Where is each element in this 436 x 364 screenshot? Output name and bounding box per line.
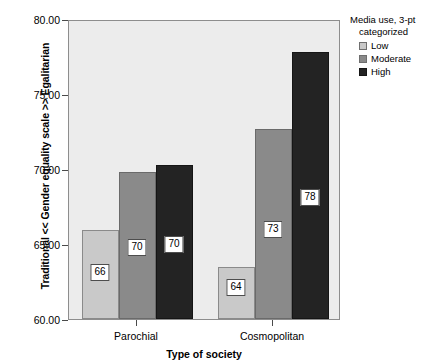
legend-item-high[interactable]: High xyxy=(359,66,436,77)
legend-item-label: High xyxy=(371,66,391,77)
legend-swatch-icon xyxy=(359,68,367,76)
x-tick-mark xyxy=(272,320,273,326)
bar-chart: Traditional << Gender equality scale >> … xyxy=(0,0,436,364)
y-tick-label: 60.00 xyxy=(0,314,60,326)
legend-items: LowModerateHigh xyxy=(350,40,436,77)
legend-swatch-icon xyxy=(359,55,367,63)
bar-value-label: 73 xyxy=(263,221,282,238)
y-tick-label: 70.00 xyxy=(0,164,60,176)
y-tick-label: 80.00 xyxy=(0,14,60,26)
x-tick-label-parochial: Parochial xyxy=(66,330,206,342)
y-tick-label: 65.00 xyxy=(0,239,60,251)
legend-item-low[interactable]: Low xyxy=(359,40,436,51)
x-axis-title: Type of society xyxy=(68,348,340,360)
legend: Media use, 3-pt categorized LowModerateH… xyxy=(350,14,436,79)
bar-value-label: 64 xyxy=(226,279,245,296)
bar-value-label: 66 xyxy=(90,264,109,281)
x-tick-label-cosmopolitan: Cosmopolitan xyxy=(202,330,342,342)
legend-title-line-1: Media use, 3-pt xyxy=(350,14,415,25)
bar-layer: 667070647378 xyxy=(69,21,339,319)
y-tick-mark xyxy=(62,320,68,321)
x-tick-mark xyxy=(136,320,137,326)
bar-high-parochial: 70 xyxy=(156,165,193,320)
legend-item-label: Moderate xyxy=(371,53,411,64)
bar-high-cosmopolitan: 78 xyxy=(292,52,329,319)
y-tick-label: 75.00 xyxy=(0,89,60,101)
plot-area: 667070647378 xyxy=(68,20,340,320)
bar-value-label: 78 xyxy=(300,189,319,206)
bar-low-parochial: 66 xyxy=(82,230,119,319)
bar-low-cosmopolitan: 64 xyxy=(218,267,255,320)
bar-moderate-parochial: 70 xyxy=(119,172,156,319)
bar-value-label: 70 xyxy=(164,236,183,253)
legend-item-moderate[interactable]: Moderate xyxy=(359,53,436,64)
legend-swatch-icon xyxy=(359,42,367,50)
legend-title-line-2: categorized xyxy=(350,26,436,38)
legend-title: Media use, 3-pt categorized xyxy=(350,14,436,37)
legend-item-label: Low xyxy=(371,40,388,51)
bar-moderate-cosmopolitan: 73 xyxy=(255,129,292,320)
bar-value-label: 70 xyxy=(127,239,146,256)
